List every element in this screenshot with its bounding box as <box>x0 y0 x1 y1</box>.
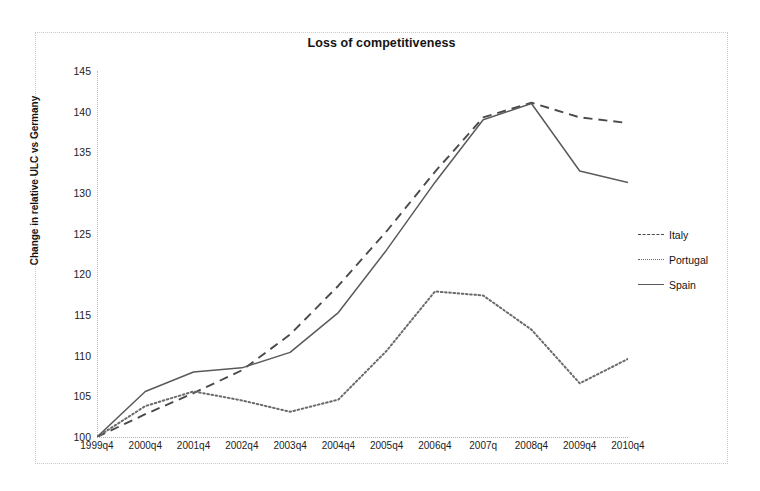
legend-item-portugal[interactable]: Portugal <box>638 247 730 272</box>
legend-item-spain[interactable]: Spain <box>638 272 730 297</box>
chart-figure: Loss of competitiveness Change in relati… <box>0 0 760 491</box>
y-tick-label: 130 <box>57 187 91 199</box>
legend-label: Portugal <box>669 254 708 266</box>
x-tick-label: 2007q <box>457 440 509 451</box>
x-tick-label: 2010q4 <box>602 440 654 451</box>
y-tick-label: 140 <box>57 106 91 118</box>
x-tick-label: 2000q4 <box>119 440 171 451</box>
plot-area <box>97 71 628 437</box>
series-line-spain <box>97 104 628 437</box>
x-tick-label: 1999q4 <box>71 440 123 451</box>
legend-item-italy[interactable]: Italy <box>638 222 730 247</box>
legend-swatch-dotted-icon <box>638 255 664 265</box>
y-tick-label: 125 <box>57 228 91 240</box>
x-tick-label: 2008q4 <box>505 440 557 451</box>
series-line-italy <box>97 103 628 437</box>
chart-legend: ItalyPortugalSpain <box>638 222 730 297</box>
legend-label: Spain <box>669 279 696 291</box>
y-tick-label: 135 <box>57 146 91 158</box>
legend-swatch-solid-icon <box>638 280 664 290</box>
x-axis-line <box>97 437 628 438</box>
x-tick-label: 2005q4 <box>361 440 413 451</box>
x-tick-label: 2003q4 <box>264 440 316 451</box>
x-axis-tick-labels: 1999q42000q42001q42002q42003q42004q42005… <box>97 440 628 458</box>
legend-swatch-dashed-icon <box>638 230 664 240</box>
series-line-portugal <box>97 291 628 437</box>
y-tick-label: 105 <box>57 390 91 402</box>
y-tick-label: 145 <box>57 65 91 77</box>
legend-label: Italy <box>669 229 688 241</box>
x-tick-label: 2002q4 <box>216 440 268 451</box>
y-tick-label: 115 <box>57 309 91 321</box>
x-tick-label: 2009q4 <box>554 440 606 451</box>
y-axis-title: Change in relative ULC vs Germany <box>29 86 40 276</box>
y-tick-label: 110 <box>57 350 91 362</box>
series-canvas <box>97 71 628 437</box>
x-tick-label: 2001q4 <box>168 440 220 451</box>
y-axis-tick-labels: 145140135130125120115110105100 <box>55 71 91 437</box>
y-tick-label: 120 <box>57 268 91 280</box>
chart-title: Loss of competitiveness <box>35 36 728 50</box>
x-tick-label: 2006q4 <box>409 440 461 451</box>
x-tick-label: 2004q4 <box>312 440 364 451</box>
